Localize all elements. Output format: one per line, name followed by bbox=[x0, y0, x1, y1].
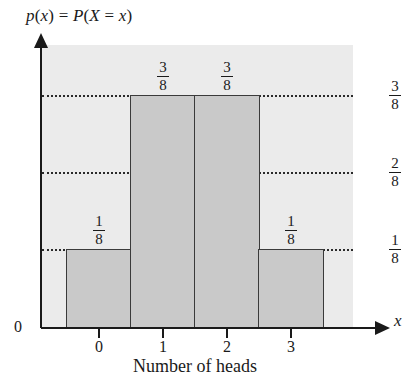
fraction-three-eighths: 3 8 bbox=[221, 60, 233, 94]
fraction-numerator: 1 bbox=[389, 233, 401, 250]
fraction-numerator: 1 bbox=[285, 214, 297, 231]
fraction-denominator: 8 bbox=[93, 231, 105, 247]
chart-title: p(x) = P(X = x) bbox=[26, 6, 132, 26]
bar-value-label-x-1: 3 8 bbox=[130, 60, 196, 94]
chart-title-capital-x: X bbox=[89, 6, 100, 25]
y-tick-label-3-8: 3 8 bbox=[378, 79, 412, 113]
fraction-denominator: 8 bbox=[389, 96, 401, 112]
fraction-numerator: 1 bbox=[93, 214, 105, 231]
x-tick-1 bbox=[162, 329, 164, 338]
bar-x-1 bbox=[130, 95, 196, 328]
bar-x-0 bbox=[66, 249, 132, 328]
chart-title-p: p bbox=[26, 6, 35, 25]
y-axis-line bbox=[40, 46, 42, 328]
fraction-numerator: 3 bbox=[221, 60, 233, 77]
fraction-denominator: 8 bbox=[389, 173, 401, 189]
x-axis-label: Number of heads bbox=[0, 356, 390, 377]
fraction-two-eighths: 2 8 bbox=[389, 156, 401, 190]
x-tick-label-3: 3 bbox=[279, 338, 303, 356]
fraction-denominator: 8 bbox=[157, 77, 169, 93]
x-tick-label-0: 0 bbox=[87, 338, 111, 356]
fraction-denominator: 8 bbox=[389, 250, 401, 266]
x-axis-line bbox=[41, 327, 376, 329]
bar-value-label-x-0: 1 8 bbox=[66, 214, 132, 248]
y-tick-label-1-8: 1 8 bbox=[378, 233, 412, 267]
fraction-three-eighths: 3 8 bbox=[389, 79, 401, 113]
x-tick-2 bbox=[226, 329, 228, 338]
y-axis-arrow-icon bbox=[34, 33, 48, 48]
fraction-numerator: 3 bbox=[389, 79, 401, 96]
x-tick-0 bbox=[98, 329, 100, 338]
bar-value-label-x-3: 1 8 bbox=[258, 214, 324, 248]
fraction-one-eighth: 1 8 bbox=[389, 233, 401, 267]
y-tick-label-zero: 0 bbox=[14, 318, 22, 336]
bar-value-label-x-2: 3 8 bbox=[194, 60, 260, 94]
bar-x-3 bbox=[258, 249, 324, 328]
x-tick-3 bbox=[290, 329, 292, 338]
fraction-numerator: 3 bbox=[157, 60, 169, 77]
probability-distribution-chart: p(x) = P(X = x) 3 8 2 8 1 8 0 1 8 bbox=[0, 0, 412, 385]
x-axis-variable-label: x bbox=[394, 311, 402, 331]
chart-title-equals-2: = bbox=[100, 6, 119, 25]
fraction-numerator: 2 bbox=[389, 156, 401, 173]
chart-title-close-paren-2: ) bbox=[126, 6, 132, 25]
fraction-denominator: 8 bbox=[285, 231, 297, 247]
chart-title-capital-p: P bbox=[73, 6, 84, 25]
fraction-one-eighth: 1 8 bbox=[285, 214, 297, 248]
fraction-three-eighths: 3 8 bbox=[157, 60, 169, 94]
bar-x-2 bbox=[194, 95, 260, 328]
x-tick-label-2: 2 bbox=[215, 338, 239, 356]
fraction-one-eighth: 1 8 bbox=[93, 214, 105, 248]
fraction-denominator: 8 bbox=[221, 77, 233, 93]
x-tick-label-1: 1 bbox=[151, 338, 175, 356]
chart-title-equals-1: = bbox=[54, 6, 73, 25]
x-axis-arrow-icon bbox=[375, 321, 390, 335]
y-tick-label-2-8: 2 8 bbox=[378, 156, 412, 190]
